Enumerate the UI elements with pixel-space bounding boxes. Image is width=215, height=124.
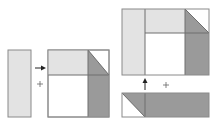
plus-icon — [163, 82, 169, 88]
middle-square-block — [48, 50, 109, 117]
quilt-assembly-diagram — [0, 0, 215, 124]
bottom-horizontal-strip — [122, 93, 209, 117]
right-arrow-icon — [35, 66, 46, 71]
plus-icon — [37, 81, 43, 87]
up-arrow-icon — [143, 78, 148, 90]
right-composite-block — [122, 9, 209, 75]
left-vertical-strip — [8, 50, 31, 117]
